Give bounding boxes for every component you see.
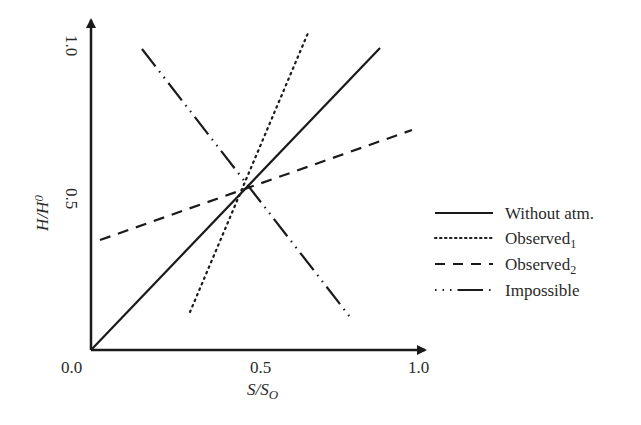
- legend: Without atm. Observed1 Observed2 Impossi…: [435, 204, 594, 300]
- line-chart: 0.0 0.5 1.0 1.0 0.5 S/SO H/H0 Without at…: [0, 0, 641, 425]
- legend-item-observed-1: Observed1: [435, 229, 576, 251]
- series-observed-2: [100, 130, 412, 240]
- x-axis-label: S/SO: [247, 380, 279, 402]
- y-axis-label: H/H0: [31, 195, 52, 232]
- svg-text:H/H0: H/H0: [31, 195, 52, 232]
- legend-item-impossible: Impossible: [435, 281, 580, 300]
- svg-text:Impossible: Impossible: [505, 281, 580, 300]
- x-tick-origin: 0.0: [61, 358, 82, 377]
- y-tick-1-0: 1.0: [62, 35, 81, 56]
- y-tick-0-5: 0.5: [62, 188, 81, 209]
- svg-text:Observed2: Observed2: [505, 255, 576, 277]
- svg-text:Observed1: Observed1: [505, 229, 576, 251]
- series-observed-1: [190, 33, 308, 312]
- legend-item-without-atm: Without atm.: [435, 204, 594, 223]
- svg-text:Without atm.: Without atm.: [505, 204, 594, 223]
- svg-text:S/SO: S/SO: [247, 380, 279, 402]
- series-without-atm: [91, 48, 380, 350]
- x-tick-0-5: 0.5: [250, 358, 271, 377]
- series-impossible: [142, 49, 350, 317]
- x-tick-1-0: 1.0: [408, 358, 429, 377]
- legend-item-observed-2: Observed2: [435, 255, 576, 277]
